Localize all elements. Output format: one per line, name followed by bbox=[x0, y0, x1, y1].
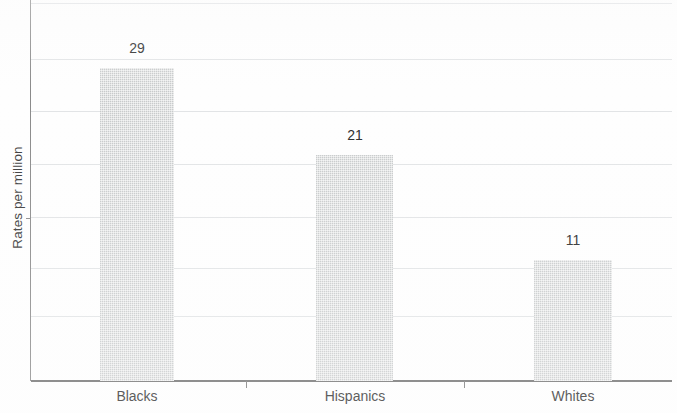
x-axis-tick bbox=[246, 381, 247, 388]
bar-hispanics bbox=[316, 155, 393, 381]
bar-whites bbox=[534, 260, 612, 381]
gridline bbox=[31, 59, 672, 60]
x-axis-label-blacks: Blacks bbox=[87, 388, 187, 404]
bar-chart: Rates per million 29 Blacks 21 Hispanics… bbox=[0, 0, 677, 413]
y-axis-title: Rates per million bbox=[10, 103, 25, 293]
bar-blacks bbox=[100, 68, 174, 381]
bar-value-hispanics: 21 bbox=[305, 127, 405, 143]
x-axis-label-whites: Whites bbox=[523, 388, 623, 404]
x-axis-tick bbox=[464, 381, 465, 388]
bar-value-whites: 11 bbox=[523, 232, 623, 248]
y-axis-line bbox=[30, 0, 31, 381]
x-axis-label-hispanics: Hispanics bbox=[305, 388, 405, 404]
gridline bbox=[31, 3, 672, 4]
bar-value-blacks: 29 bbox=[87, 40, 187, 56]
